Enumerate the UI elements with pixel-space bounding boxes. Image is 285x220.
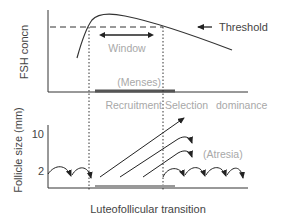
tick-2: 2 [38, 165, 44, 177]
follicle-y-label: Follicle size (mm) [12, 107, 24, 193]
transition-bar [95, 185, 175, 187]
tick-10: 10 [32, 128, 44, 140]
recruitment-label: Recruitment [105, 99, 162, 111]
atresia-wave-4 [227, 168, 243, 178]
atresia-wave-1 [163, 169, 184, 177]
luteal-wave-1 [48, 167, 71, 176]
follicle-x-label: Luteofollicular transition [90, 203, 206, 215]
window-label: Window [108, 42, 146, 54]
dominance-label: dominance [216, 99, 268, 111]
atresia-wave-2 [185, 168, 205, 176]
menses-label: (Menses) [117, 76, 161, 88]
cohort-arrow-3 [143, 151, 192, 177]
luteal-wave-2 [72, 168, 91, 178]
dominant-follicle-arrow [100, 118, 184, 177]
selection-label: Selection [165, 99, 208, 111]
fsh-y-label: FSH concn [18, 25, 30, 79]
fsh-curve [77, 14, 232, 58]
diagram-canvas: FSH concn Threshold Window (Menses) Recr… [0, 0, 285, 220]
atresia-wave-3 [206, 168, 226, 176]
atresia-label: (Atresia) [203, 148, 243, 160]
threshold-label: Threshold [219, 21, 268, 33]
